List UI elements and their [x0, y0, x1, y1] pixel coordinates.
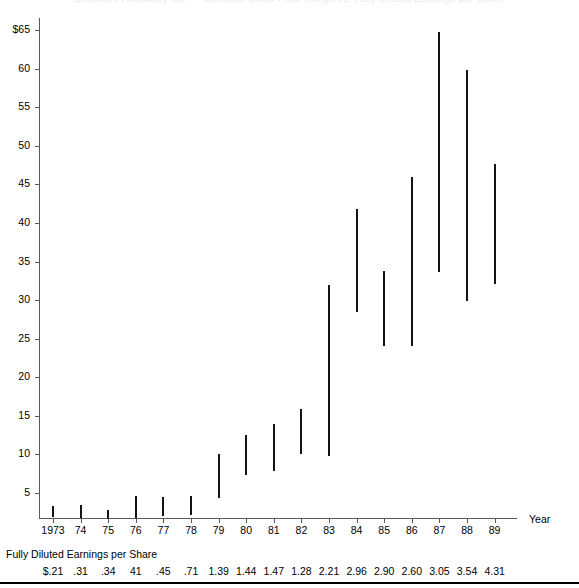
- y-axis-tick: 30: [35, 300, 40, 301]
- y-axis-tick-label: 40: [18, 217, 30, 228]
- x-axis-tick: [384, 518, 385, 523]
- eps-value-label: .31: [73, 565, 88, 578]
- y-axis-tick: 45: [35, 184, 40, 185]
- x-axis-tick: [136, 518, 137, 523]
- x-axis-year-label: 77: [158, 524, 170, 537]
- x-axis-year-label: 78: [185, 524, 197, 537]
- x-axis-tick: [53, 518, 54, 523]
- y-axis-tick: $65: [35, 30, 40, 31]
- y-axis-tick-label: 35: [18, 256, 30, 267]
- eps-value-label: .34: [101, 565, 116, 578]
- x-axis-year-label: 79: [213, 524, 225, 537]
- y-axis-tick: 55: [35, 107, 40, 108]
- x-axis-tick: [81, 518, 82, 523]
- x-axis-tick: [301, 518, 302, 523]
- x-axis-year-label: 80: [240, 524, 252, 537]
- y-axis-tick: 50: [35, 146, 40, 147]
- eps-value-label: .45: [156, 565, 171, 578]
- y-axis-tick-label: 25: [18, 333, 30, 344]
- range-bar: [383, 271, 385, 346]
- x-axis-tick: [246, 518, 247, 523]
- range-bar: [494, 164, 496, 284]
- x-axis-tick: [163, 518, 164, 523]
- x-axis-tick: [274, 518, 275, 523]
- eps-caption: Fully Diluted Earnings per Share: [6, 548, 157, 561]
- x-axis-tick: [219, 518, 220, 523]
- x-axis-tick: [329, 518, 330, 523]
- x-axis-year-label: 89: [489, 524, 501, 537]
- x-axis-year-label: 84: [351, 524, 363, 537]
- eps-value-label: 2.90: [374, 565, 394, 578]
- range-bar: [107, 510, 109, 519]
- y-axis-tick: 10: [35, 454, 40, 455]
- range-bar: [300, 409, 302, 455]
- y-axis-tick-label: 60: [18, 63, 30, 74]
- x-axis-tick: [495, 518, 496, 523]
- range-bar: [80, 505, 82, 518]
- x-axis-tick: [467, 518, 468, 523]
- eps-value-label: 1.39: [208, 565, 228, 578]
- y-axis-tick: 40: [35, 223, 40, 224]
- eps-value-label: 4.31: [484, 565, 504, 578]
- x-axis-tick: [357, 518, 358, 523]
- y-axis-tick-label: 10: [18, 448, 30, 459]
- x-axis-tick: [439, 518, 440, 523]
- bottom-divider: [0, 582, 579, 584]
- x-axis-year-label: 85: [378, 524, 390, 537]
- clipped-title: Berkshire Hathaway Inc. — Common Stock P…: [0, 0, 579, 5]
- x-axis-tick: [412, 518, 413, 523]
- y-axis-tick-label: 20: [18, 371, 30, 382]
- x-axis-year-label: 76: [130, 524, 142, 537]
- eps-value-label: 1.44: [236, 565, 256, 578]
- range-bar: [52, 506, 54, 517]
- y-axis-tick: 20: [35, 377, 40, 378]
- range-bar: [466, 70, 468, 301]
- y-axis-tick-label: $65: [12, 24, 30, 35]
- y-axis-tick: 5: [35, 493, 40, 494]
- eps-value-label: $.21: [43, 565, 63, 578]
- x-axis-year-label: 87: [434, 524, 446, 537]
- x-axis-year-label: 75: [102, 524, 114, 537]
- range-bar: [190, 496, 192, 515]
- y-axis-tick: 35: [35, 262, 40, 263]
- range-bar: [328, 285, 330, 456]
- eps-value-labels: $.21.31.3441.45.711.391.441.471.282.212.…: [39, 565, 517, 579]
- y-axis-tick: 15: [35, 416, 40, 417]
- range-bar: [356, 209, 358, 312]
- x-axis-tick: [191, 518, 192, 523]
- range-bar: [162, 497, 164, 516]
- y-axis-tick-label: 50: [18, 140, 30, 151]
- range-bar: [273, 424, 275, 472]
- x-axis-year-label: 81: [268, 524, 280, 537]
- y-axis-tick-label: 30: [18, 294, 30, 305]
- eps-value-label: 3.05: [429, 565, 449, 578]
- eps-value-label: 41: [130, 565, 142, 578]
- x-axis-year-labels: 197374757677787980818283848586878889: [39, 524, 517, 538]
- y-axis-tick-label: 15: [18, 410, 30, 421]
- y-axis-line: [39, 18, 40, 519]
- range-bar: [411, 177, 413, 345]
- eps-value-label: 1.28: [291, 565, 311, 578]
- x-axis-year-label: 88: [461, 524, 473, 537]
- y-axis-tick: 25: [35, 339, 40, 340]
- x-axis-year-label: 83: [323, 524, 335, 537]
- y-axis-tick-label: 55: [18, 101, 30, 112]
- range-bar: [218, 454, 220, 497]
- eps-value-label: 1.47: [264, 565, 284, 578]
- eps-value-label: 2.21: [319, 565, 339, 578]
- y-axis-tick-label: 45: [18, 178, 30, 189]
- eps-value-label: .71: [184, 565, 199, 578]
- eps-value-label: 2.60: [402, 565, 422, 578]
- range-bar: [135, 496, 137, 518]
- y-axis-tick-label: 5: [24, 487, 30, 498]
- x-axis-line: [39, 518, 517, 519]
- x-axis-year-label: 1973: [41, 524, 64, 537]
- range-bar: [438, 32, 440, 273]
- y-axis-tick: 60: [35, 69, 40, 70]
- x-axis-year-label: 82: [296, 524, 308, 537]
- eps-value-label: 3.54: [457, 565, 477, 578]
- x-axis-title: Year: [529, 513, 550, 526]
- chart-plot-area: $6560555045403530252015105: [39, 18, 517, 519]
- x-axis-year-label: 86: [406, 524, 418, 537]
- eps-value-label: 2.96: [346, 565, 366, 578]
